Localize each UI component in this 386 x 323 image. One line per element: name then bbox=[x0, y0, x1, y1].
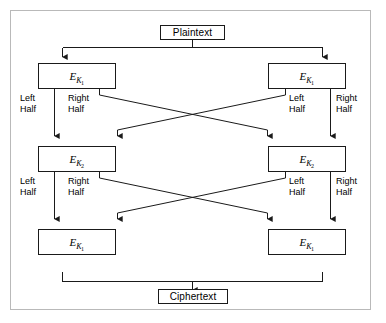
round3-left-cipher-label: EK1 bbox=[69, 237, 84, 248]
key-index: 1 bbox=[81, 80, 84, 86]
stage2-outer-right-half-label: Right Half bbox=[336, 176, 357, 197]
stage1-inner-right-half-label: Left Half bbox=[289, 93, 305, 114]
round2-right-cipher-box: EK2 bbox=[268, 146, 346, 172]
stage1-inner-left-half-label: Right Half bbox=[68, 93, 89, 114]
stage1-outer-right-half-label: Right Half bbox=[336, 93, 357, 114]
round2-left-cipher-label: EK2 bbox=[69, 154, 84, 165]
round1-left-cipher-box: EK1 bbox=[38, 63, 116, 89]
round1-left-cipher-label: EK1 bbox=[69, 71, 84, 82]
ciphertext-box: Ciphertext bbox=[158, 289, 228, 304]
key-index: 1 bbox=[311, 246, 314, 252]
key-index: 1 bbox=[81, 246, 84, 252]
ciphertext-label: Ciphertext bbox=[170, 291, 217, 302]
round3-right-cipher-label: EK1 bbox=[299, 237, 314, 248]
stage2-outer-left-half-label: Left Half bbox=[20, 176, 36, 197]
plaintext-box: Plaintext bbox=[160, 25, 225, 40]
plaintext-label: Plaintext bbox=[173, 27, 212, 38]
round3-right-cipher-box: EK1 bbox=[268, 229, 346, 255]
round1-right-cipher-label: EK1 bbox=[299, 71, 314, 82]
round3-left-cipher-box: EK1 bbox=[38, 229, 116, 255]
round2-right-cipher-label: EK2 bbox=[299, 154, 314, 165]
stage2-inner-right-half-label: Left Half bbox=[289, 176, 305, 197]
figure-root: Plaintext EK1 EK1 Left Half Right Half L… bbox=[0, 0, 386, 323]
key-index: 1 bbox=[311, 80, 314, 86]
round2-left-cipher-box: EK2 bbox=[38, 146, 116, 172]
key-index: 2 bbox=[81, 163, 84, 169]
stage2-inner-left-half-label: Right Half bbox=[68, 176, 89, 197]
key-index: 2 bbox=[311, 163, 314, 169]
round1-right-cipher-box: EK1 bbox=[268, 63, 346, 89]
stage1-outer-left-half-label: Left Half bbox=[20, 93, 36, 114]
